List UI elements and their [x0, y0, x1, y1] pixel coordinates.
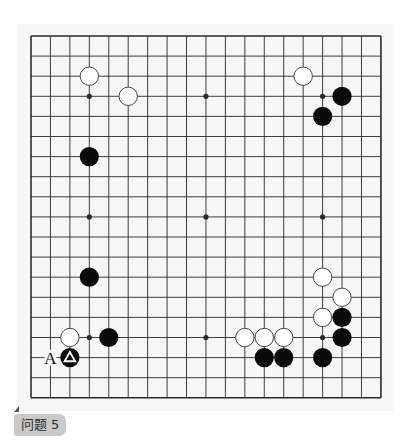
black-stone[interactable] [313, 107, 332, 126]
problem-label: 问题 5 [14, 414, 66, 436]
black-stone[interactable] [274, 348, 293, 367]
go-board[interactable]: A [0, 0, 406, 448]
hoshi-point [87, 94, 92, 99]
black-stone[interactable] [255, 348, 274, 367]
white-stone[interactable] [61, 328, 79, 346]
hoshi-point [320, 335, 325, 340]
hoshi-point [203, 94, 208, 99]
point-label-a: A [44, 349, 57, 368]
white-stone[interactable] [80, 67, 98, 85]
black-stone[interactable] [99, 328, 118, 347]
hoshi-point [320, 94, 325, 99]
white-stone[interactable] [313, 268, 331, 286]
hoshi-point [87, 335, 92, 340]
white-stone[interactable] [236, 328, 254, 346]
white-stone[interactable] [275, 328, 293, 346]
white-stone[interactable] [294, 67, 312, 85]
black-stone[interactable] [332, 308, 351, 327]
white-stone[interactable] [119, 87, 137, 105]
black-stone[interactable] [313, 348, 332, 367]
black-stone[interactable] [332, 87, 351, 106]
tag-corner-marker [14, 406, 19, 412]
hoshi-point [203, 335, 208, 340]
black-stone[interactable] [80, 147, 99, 166]
white-stone[interactable] [333, 288, 351, 306]
black-stone[interactable] [332, 328, 351, 347]
hoshi-point [87, 214, 92, 219]
white-stone[interactable] [255, 328, 273, 346]
white-stone[interactable] [313, 308, 331, 326]
hoshi-point [203, 214, 208, 219]
hoshi-point [320, 214, 325, 219]
black-stone[interactable] [80, 268, 99, 287]
